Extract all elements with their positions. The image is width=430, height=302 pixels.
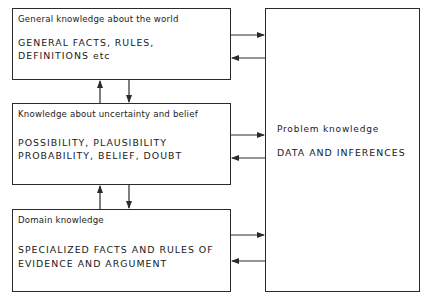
connection-arrows [0,0,430,302]
